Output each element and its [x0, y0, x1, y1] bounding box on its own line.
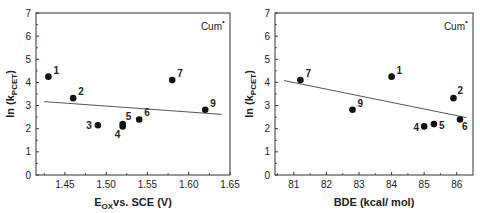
x-tick-label: 1.50: [96, 179, 116, 190]
plot-frame: [275, 13, 473, 175]
left-plot-svg: 012345671.451.501.551.601.6512345679Cuml…: [0, 0, 240, 213]
x-tick-label: 85: [419, 179, 431, 190]
fit-line: [284, 81, 466, 118]
x-tick-label: 83: [353, 179, 365, 190]
y-tick-label: 7: [25, 8, 31, 19]
point-label-7: 7: [305, 68, 311, 79]
x-axis-label: BDE (kcal/ mol): [334, 196, 415, 208]
data-point-2: [70, 95, 77, 102]
y-tick-label: 2: [25, 123, 31, 134]
x-tick-label: 86: [451, 179, 463, 190]
y-tick-label: 6: [264, 31, 270, 42]
y-tick-label: 7: [264, 8, 270, 19]
chart-left-eox: 012345671.451.501.551.601.6512345679Cuml…: [0, 0, 240, 213]
point-label-4: 4: [115, 129, 121, 140]
annotation-cum: Cum: [444, 21, 465, 32]
data-point-7: [297, 77, 304, 84]
plot-frame: [36, 13, 230, 175]
point-label-2: 2: [78, 86, 84, 97]
y-tick-label: 0: [25, 170, 31, 181]
point-label-6: 6: [462, 121, 468, 132]
point-label-3: 3: [86, 120, 92, 131]
data-point-3: [95, 122, 102, 129]
point-label-5: 5: [439, 120, 445, 131]
x-axis-label: EOXvs. SCE (V): [94, 196, 172, 211]
point-label-5: 5: [126, 111, 132, 122]
right-plot-svg: 012345678182838485861245679Cumln (kPCET)…: [240, 0, 480, 213]
y-tick-label: 0: [264, 170, 270, 181]
data-point-7: [169, 77, 176, 84]
y-axis-label: ln (kPCET): [243, 70, 258, 118]
y-tick-label: 3: [25, 100, 31, 111]
y-tick-label: 3: [264, 100, 270, 111]
x-tick-label: 1.55: [138, 179, 158, 190]
y-tick-label: 4: [264, 77, 270, 88]
y-tick-label: 1: [264, 146, 270, 157]
x-tick-label: 84: [386, 179, 398, 190]
radical-dot-icon: [222, 21, 224, 23]
x-tick-label: 82: [321, 179, 333, 190]
point-label-6: 6: [144, 107, 150, 118]
point-label-2: 2: [457, 85, 463, 96]
x-tick-label: 81: [288, 179, 300, 190]
data-point-4: [421, 123, 428, 130]
chart-right-bde: 012345678182838485861245679Cumln (kPCET)…: [240, 0, 480, 213]
y-tick-label: 4: [25, 77, 31, 88]
point-label-9: 9: [210, 98, 216, 109]
data-point-9: [349, 106, 356, 113]
radical-dot-icon: [465, 21, 467, 23]
x-tick-label: 1.45: [55, 179, 75, 190]
point-label-1: 1: [53, 65, 59, 76]
data-point-1: [388, 73, 395, 80]
y-tick-label: 2: [264, 123, 270, 134]
y-tick-label: 5: [264, 54, 270, 65]
point-label-1: 1: [397, 65, 403, 76]
data-point-2: [450, 95, 457, 102]
y-tick-label: 5: [25, 54, 31, 65]
data-point-6: [136, 116, 143, 123]
x-tick-label: 1.60: [179, 179, 199, 190]
y-tick-label: 1: [25, 146, 31, 157]
annotation-cum: Cum: [201, 21, 222, 32]
y-axis-label: ln (kPCET): [4, 70, 19, 118]
point-label-4: 4: [414, 122, 420, 133]
fit-line: [44, 102, 221, 115]
x-tick-label: 1.65: [220, 179, 240, 190]
point-label-7: 7: [177, 68, 183, 79]
data-point-1: [45, 73, 52, 80]
y-tick-label: 6: [25, 31, 31, 42]
point-label-9: 9: [358, 98, 364, 109]
data-point-9: [202, 106, 209, 113]
data-point-5: [431, 121, 438, 128]
